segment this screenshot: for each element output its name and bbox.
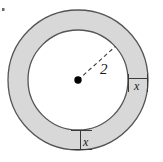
annulus-diagram-svg: 2 x x (0, 0, 163, 162)
thickness-bottom-label: x (82, 135, 89, 149)
thickness-right-label: x (133, 79, 140, 93)
radius-label: 2 (100, 61, 108, 77)
center-dot (74, 76, 81, 83)
annulus-figure: 2 x x (0, 0, 163, 162)
scan-artifact-mark (2, 8, 5, 11)
